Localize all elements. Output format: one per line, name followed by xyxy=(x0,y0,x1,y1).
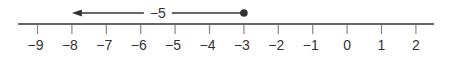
arrowhead-icon xyxy=(72,10,82,17)
tick-label: 1 xyxy=(378,37,386,53)
tick-group: −9−8−7−6−5−4−3−2−1012 xyxy=(28,25,420,53)
tick-label: −9 xyxy=(28,37,44,53)
tick-label: −1 xyxy=(303,37,319,53)
tick-label: −8 xyxy=(62,37,78,53)
tick-label: −7 xyxy=(96,37,112,53)
number-line-diagram: −9−8−7−6−5−4−3−2−1012 −5 xyxy=(0,0,453,57)
tick-label: −2 xyxy=(268,37,284,53)
jump-arrow: −5 xyxy=(72,5,248,21)
tick-label: −5 xyxy=(165,37,181,53)
start-point-dot xyxy=(240,9,248,17)
tick-label: 0 xyxy=(343,37,351,53)
jump-label: −5 xyxy=(150,5,166,21)
tick-label: −4 xyxy=(200,37,216,53)
tick-label: −6 xyxy=(131,37,147,53)
tick-label: −3 xyxy=(234,37,250,53)
tick-label: 2 xyxy=(412,37,420,53)
